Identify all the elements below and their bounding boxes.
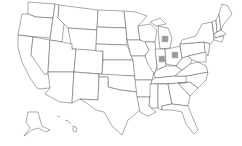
state-sd[interactable] [96, 27, 127, 45]
state-nd[interactable] [97, 10, 126, 28]
state-me[interactable] [219, 4, 232, 30]
state-fl[interactable] [162, 104, 198, 134]
state-borders [18, 2, 232, 136]
state-ms[interactable] [149, 84, 158, 108]
state-nm[interactable] [72, 72, 99, 103]
marker-indiana[interactable] [159, 56, 165, 62]
state-ut[interactable] [48, 40, 76, 72]
state-ks[interactable] [102, 60, 135, 76]
state-ar[interactable] [135, 80, 152, 97]
marker-ohio[interactable] [172, 52, 178, 58]
state-ny[interactable] [180, 22, 214, 44]
state-or[interactable] [18, 14, 53, 38]
us-map [0, 0, 242, 146]
state-hi[interactable] [57, 116, 77, 132]
state-co[interactable] [74, 49, 103, 74]
state-wy[interactable] [68, 28, 97, 51]
state-wi[interactable] [138, 24, 157, 42]
marker-michigan[interactable] [162, 36, 168, 42]
state-ak[interactable] [24, 112, 50, 136]
